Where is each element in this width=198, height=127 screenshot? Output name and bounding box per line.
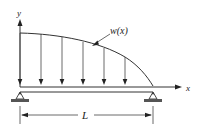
load-leader-line [96,34,110,43]
ground-hatch-icon [144,99,162,102]
ground-hatch-icon [11,99,29,102]
load-arrow-icon [18,79,23,85]
x-axis-arrowhead-icon [175,85,182,90]
load-arrow-icon [81,79,86,85]
load-arrow-icon [123,79,128,85]
load-arrow-icon [39,79,44,85]
load-arrow-icon [60,79,65,85]
y-axis-label: y [16,8,21,18]
beam-diagram: y w(x) x [0,0,198,127]
x-axis-label: x [185,83,190,93]
dimension-arrow-left-icon [21,113,28,118]
load-arrow-icon [102,79,107,85]
y-axis-arrowhead-icon [18,19,23,26]
y-axis: y [16,8,23,87]
beam [20,87,153,92]
load-arrows [18,33,128,85]
left-pin-support [11,92,29,102]
distributed-load: w(x) [18,25,153,86]
load-curve [20,33,153,86]
dimension-arrow-right-icon [145,113,152,118]
right-pin-support [144,92,162,102]
length-label: L [81,109,88,121]
x-axis: x [153,83,190,93]
length-dimension: L [20,106,153,124]
load-label: w(x) [110,25,128,37]
